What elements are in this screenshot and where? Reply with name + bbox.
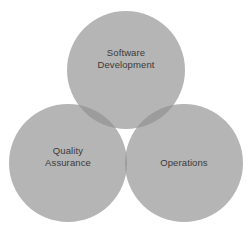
venn-diagram-graphic xyxy=(0,0,252,233)
venn-diagram: Software Development Quality Assurance O… xyxy=(0,0,252,233)
